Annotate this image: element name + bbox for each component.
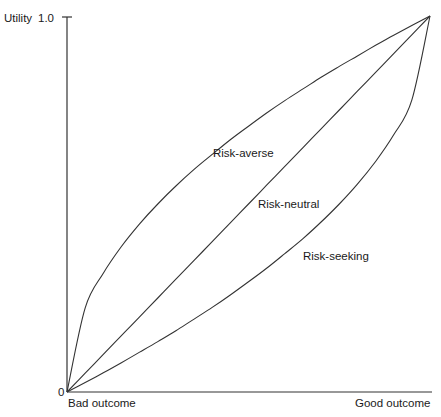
x-tick-label-bad: Bad outcome <box>68 397 136 409</box>
series-line-risk-neutral <box>67 16 430 392</box>
annotation-risk-neutral: Risk-neutral <box>258 198 319 210</box>
x-tick-label-good: Good outcome <box>355 397 430 409</box>
y-tick-label-top: 1.0 <box>38 12 54 24</box>
y-axis-label: Utility <box>4 12 32 24</box>
annotation-risk-seeking: Risk-seeking <box>303 250 369 262</box>
annotation-risk-averse: Risk-averse <box>213 147 274 159</box>
utility-chart: Utility 1.0 0 Bad outcome Good outcome R… <box>0 0 441 417</box>
y-tick-label-zero: 0 <box>58 386 64 398</box>
